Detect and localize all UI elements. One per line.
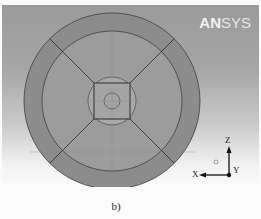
graphics-viewport[interactable]: ANSYS Z X Y xyxy=(2,5,259,187)
logo-bold: AN xyxy=(199,14,221,31)
ansys-logo: ANSYS xyxy=(199,14,251,31)
z-axis-label: Z xyxy=(225,135,231,145)
axis-triad[interactable]: Z X Y xyxy=(192,138,247,180)
figure-caption: b) xyxy=(0,200,232,212)
logo-light: SYS xyxy=(221,14,251,31)
x-axis-label: X xyxy=(192,169,199,179)
y-axis-label: Y xyxy=(233,165,240,175)
